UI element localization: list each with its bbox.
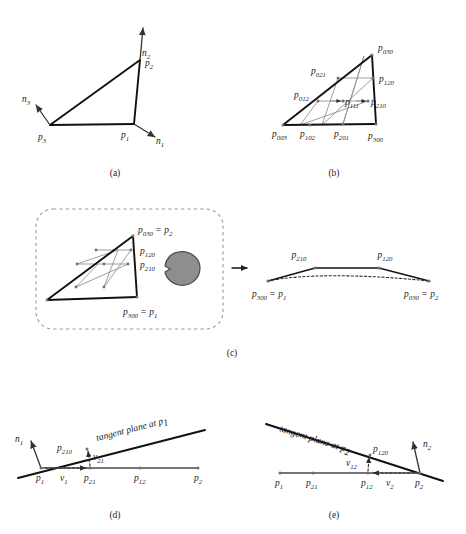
panel-e-tangent-label: tangent plane at p2	[278, 423, 352, 457]
panel-c-control-net	[76, 250, 131, 287]
panel-c-label-p210: p210	[139, 260, 156, 272]
panel-a-label-n3: n3	[22, 94, 31, 106]
panel-d: tangent plane at p1 n1 p210 v21 p1 v1 p2…	[15, 415, 205, 521]
panel-b-dot-p102	[309, 124, 312, 127]
panel-d-label-v21: v21	[93, 452, 104, 464]
panel-d-label-n1: n1	[15, 434, 23, 446]
panel-b-label-p012: p012	[293, 90, 310, 102]
panel-b-dot-p201	[342, 123, 345, 126]
panel-c-right-label-p300-eq-p1: p300 = p1	[251, 289, 286, 301]
panel-b-edge-bottom	[283, 124, 376, 125]
panel-c-label-p030-eq-p2: p030 = p2	[137, 225, 173, 237]
panel-c-label-p300-eq-p1: p300 = p1	[122, 307, 157, 319]
panel-e-label-p21: p21	[305, 478, 318, 490]
panel-d-caption: (d)	[109, 510, 120, 521]
panel-b-edge-right	[372, 55, 376, 124]
panel-e-label-p120: p120	[372, 444, 389, 456]
panel-e-dot-p1	[279, 472, 282, 475]
panel-b-label-p120: p120	[378, 74, 395, 86]
panel-a-edge-p2-p3	[50, 60, 140, 125]
panel-a-normal-n3-arrow	[36, 105, 50, 125]
panel-a-normal-n1-arrow	[134, 124, 155, 137]
panel-c-right-dot-p300	[266, 279, 269, 282]
panel-e-dot-p12	[367, 472, 370, 475]
panel-d-label-v1: v1	[60, 473, 68, 485]
panel-e-label-v12: v12	[346, 458, 358, 470]
panel-d-label-p1: p1	[35, 473, 44, 485]
panel-b-label-p003: p003	[271, 129, 288, 141]
panel-e-vector-v12-arrow	[368, 457, 369, 471]
panel-b-label-p111: p111	[344, 97, 359, 109]
panel-c-edge-hyp	[47, 236, 133, 300]
surface-patch-icon	[165, 252, 200, 286]
panel-a-edge-p3-p1	[50, 124, 134, 125]
panel-c-dot-p201	[103, 286, 106, 289]
panel-c-right-label-p120: p120	[377, 250, 394, 262]
panel-b-label-p300: p300	[367, 131, 384, 143]
panel-c-dot-p300	[136, 296, 139, 299]
panel-a-edge-p1-p2	[134, 60, 140, 124]
panel-e-dot-p120	[369, 454, 372, 457]
panel-d-dot-p210	[86, 448, 89, 451]
panel-c-right-label-p210: p210	[291, 250, 308, 262]
panel-b-dot-p030	[371, 54, 374, 57]
panel-d-dot-p1	[40, 467, 43, 470]
panel-c-bezier-curve	[268, 276, 429, 281]
panel-a-label-p2: p2	[144, 58, 154, 70]
panel-c-dot-p030	[132, 235, 135, 238]
panel-b-dot-p210	[367, 100, 370, 103]
panel-c-right-dot-p030	[427, 279, 430, 282]
panel-b-dot-p120	[372, 77, 375, 80]
panel-e-normal-n2-arrow	[413, 442, 420, 473]
panel-c-label-p120: p120	[139, 246, 156, 258]
panel-d-tangent-label: tangent plane at p1	[95, 415, 169, 446]
panel-c-dot-p012	[76, 263, 79, 266]
panel-b: p030 p021 p120 p012 p111 p210 p003 p102	[271, 43, 395, 179]
panel-c-dot-p102	[75, 286, 78, 289]
panel-e-label-p12: p12	[360, 478, 373, 490]
panel-b-label-p030: p030	[377, 43, 394, 55]
panel-c-edge-bottom	[47, 297, 137, 300]
panel-c-edge-right	[133, 236, 137, 297]
figure-canvas: n2 p2 n1 p1 n3 p3 (a)	[0, 0, 466, 534]
panel-c-dot-p021	[95, 249, 98, 252]
panel-c-net-diag-1	[76, 264, 128, 287]
panel-a: n2 p2 n1 p1 n3 p3 (a)	[22, 28, 164, 179]
panel-e-label-n2: n2	[423, 439, 432, 451]
panel-c-right-dot-p120	[377, 266, 380, 269]
panel-b-dot-p300	[375, 123, 378, 126]
panel-b-label-p021: p021	[310, 66, 326, 78]
panel-a-label-p3: p3	[37, 132, 47, 144]
panel-d-dot-p21	[89, 467, 92, 470]
panel-b-label-p210: p210	[370, 97, 387, 109]
panel-d-label-p12: p12	[133, 473, 146, 485]
panel-c-right-label-p030-eq-p2: p030 = p2	[403, 289, 439, 301]
panel-d-normal-n1-arrow	[31, 441, 41, 468]
panel-a-label-n1: n1	[156, 136, 164, 148]
panel-e-caption: (e)	[329, 510, 340, 521]
panel-d-vector-v21-arrow	[88, 451, 90, 466]
panel-b-dot-p021	[337, 77, 340, 80]
panel-e-dot-p2	[419, 472, 422, 475]
panel-b-label-p102: p102	[299, 129, 316, 141]
panel-b-caption: (b)	[328, 168, 339, 179]
panel-d-label-p210: p210	[56, 443, 73, 455]
panel-d-label-p21: p21	[83, 473, 96, 485]
panel-e-dot-p21	[312, 472, 315, 475]
panel-a-caption: (a)	[110, 168, 121, 179]
figure-root: n2 p2 n1 p1 n3 p3 (a)	[0, 0, 466, 534]
panel-c-dot-p210	[127, 263, 130, 266]
panel-c-right-dot-p210	[313, 266, 316, 269]
panel-c: p030 = p2 p120 p210 p300 = p1 p210 p120 …	[36, 209, 439, 359]
panel-c-dot-p120	[130, 249, 133, 252]
panel-e-label-p2: p2	[414, 478, 424, 490]
panel-c-dot-p111	[103, 263, 106, 266]
panel-c-dot-p003	[46, 299, 49, 302]
panel-d-dot-p12	[139, 467, 142, 470]
panel-d-dot-p2	[197, 467, 200, 470]
panel-e: tangent plane at p2 p120 n2 v12 v2 p1 p2…	[266, 423, 443, 521]
panel-e-label-p1: p1	[274, 478, 283, 490]
panel-a-label-p1: p1	[120, 130, 129, 142]
panel-d-label-p2: p2	[193, 473, 203, 485]
panel-e-label-v2: v2	[386, 478, 394, 490]
